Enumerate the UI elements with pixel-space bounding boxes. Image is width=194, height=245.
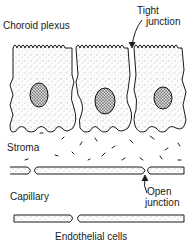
label-capillary: Capillary: [10, 191, 49, 202]
nucleus-1: [30, 83, 48, 107]
choroid-plexus-diagram: Choroid plexus Tight junction Stroma Cap…: [0, 0, 194, 245]
label-open-junction-line2: junction: [145, 197, 179, 208]
label-choroid-plexus: Choroid plexus: [3, 20, 70, 31]
label-tight-junction-line1: Tight: [137, 5, 159, 16]
label-endothelial-cells: Endothelial cells: [55, 231, 127, 242]
nucleus-3: [154, 87, 172, 109]
label-stroma: Stroma: [7, 142, 39, 153]
epithelial-cell-2: [76, 45, 132, 132]
capillary-wall-upper: [10, 167, 184, 174]
diagram-drawing: [0, 0, 194, 245]
label-tight-junction-line2: junction: [146, 16, 180, 27]
label-open-junction-line1: Open: [147, 186, 171, 197]
nucleus-2: [95, 88, 115, 114]
capillary-wall-lower: [14, 215, 184, 222]
epithelial-cell-1: [10, 45, 76, 132]
epithelial-cell-3: [134, 45, 186, 132]
stroma-fibers: [25, 133, 181, 160]
